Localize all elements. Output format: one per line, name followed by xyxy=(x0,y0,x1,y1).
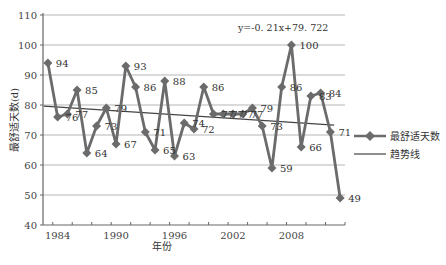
data-label: 100 xyxy=(299,40,318,51)
y-tick-label: 60 xyxy=(24,160,37,171)
data-label: 86 xyxy=(144,82,157,93)
y-tick-label: 40 xyxy=(24,220,37,231)
data-labels: 9476778564737967938671658863747286777777… xyxy=(56,40,361,204)
trend-equation: y=-0. 21x+79. 722 xyxy=(237,22,328,33)
data-label: 94 xyxy=(56,58,69,69)
chart: 405060708090100110 19841990199620022008 … xyxy=(0,0,446,265)
data-label: 66 xyxy=(309,142,322,153)
data-label: 85 xyxy=(85,85,98,96)
legend-item-trend: 趋势线 xyxy=(354,148,420,160)
x-tick-label: 2008 xyxy=(279,230,304,241)
y-axis-title: 最舒适天数(d) xyxy=(8,88,20,152)
diamond-marker-icon xyxy=(297,143,306,152)
x-axis-title: 年份 xyxy=(152,240,172,252)
y-tick-label: 80 xyxy=(24,100,37,111)
x-tick-label: 1996 xyxy=(162,230,187,241)
data-label: 93 xyxy=(134,61,147,72)
diamond-marker-icon xyxy=(306,92,315,101)
diamond-marker-icon xyxy=(73,86,82,95)
legend-label-trend: 趋势线 xyxy=(390,148,420,160)
x-tick-label: 1984 xyxy=(45,230,70,241)
diamond-marker-icon xyxy=(365,131,375,141)
data-label: 88 xyxy=(173,76,186,87)
data-label: 67 xyxy=(124,139,137,150)
data-label: 71 xyxy=(338,127,351,138)
data-label: 77 xyxy=(75,109,88,120)
diamond-marker-icon xyxy=(112,140,121,149)
legend: 最舒适天数 趋势线 xyxy=(354,130,440,160)
y-tick-label: 50 xyxy=(24,190,37,201)
data-label: 64 xyxy=(95,148,108,159)
data-label: 72 xyxy=(202,124,215,135)
data-label: 49 xyxy=(348,193,361,204)
y-tick-label: 90 xyxy=(24,70,37,81)
diamond-marker-icon xyxy=(131,83,140,92)
diamond-marker-icon xyxy=(277,83,286,92)
data-label: 63 xyxy=(183,151,196,162)
y-axis: 405060708090100110 xyxy=(18,10,43,231)
data-label: 86 xyxy=(212,82,225,93)
data-label: 59 xyxy=(280,163,293,174)
diamond-marker-icon xyxy=(43,59,52,68)
data-label: 86 xyxy=(290,82,303,93)
data-label: 79 xyxy=(260,103,273,114)
data-label: 79 xyxy=(114,103,127,114)
diamond-marker-icon xyxy=(53,113,62,122)
x-tick-label: 1990 xyxy=(103,230,128,241)
diamond-marker-icon xyxy=(82,149,91,158)
data-label: 71 xyxy=(153,127,166,138)
diamond-marker-icon xyxy=(121,62,130,71)
x-axis: 19841990199620022008 xyxy=(43,222,345,241)
diamond-marker-icon xyxy=(199,83,208,92)
diamond-marker-icon xyxy=(287,41,296,50)
diamond-marker-icon xyxy=(160,77,169,86)
y-tick-label: 110 xyxy=(18,10,37,21)
y-tick-label: 70 xyxy=(24,130,37,141)
x-tick-label: 2002 xyxy=(220,230,245,241)
y-tick-label: 100 xyxy=(18,40,37,51)
legend-label-series: 最舒适天数 xyxy=(390,130,440,142)
data-label: 65 xyxy=(163,145,176,156)
data-label: 73 xyxy=(270,121,283,132)
legend-item-series: 最舒适天数 xyxy=(354,130,440,142)
data-label: 73 xyxy=(105,121,118,132)
data-label: 84 xyxy=(329,88,342,99)
